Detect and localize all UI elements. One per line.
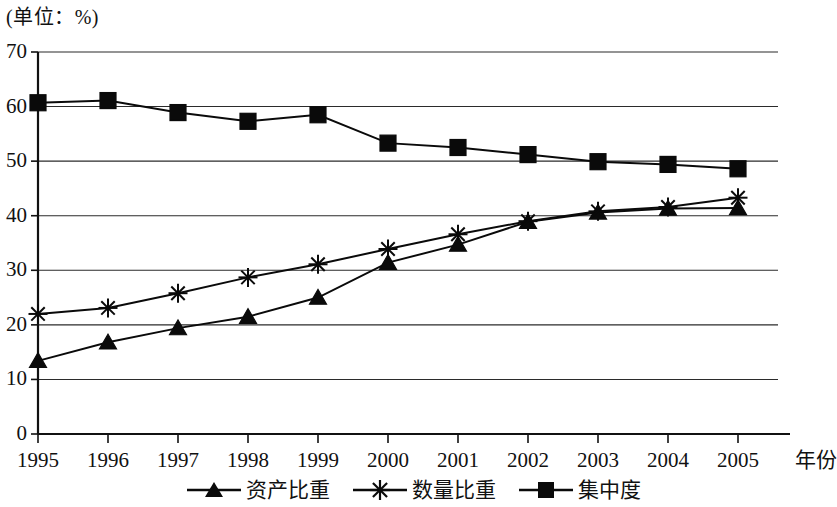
- x-tick-label: 2004: [633, 450, 703, 471]
- square-marker: [240, 113, 256, 129]
- legend-label: 资产比重: [246, 479, 330, 501]
- square-marker: [170, 105, 186, 121]
- triangle-marker: [186, 479, 242, 501]
- asterisk-marker: [309, 255, 328, 274]
- legend-swatch: [352, 479, 408, 501]
- asterisk-marker: [589, 202, 608, 221]
- square-marker: [450, 140, 466, 156]
- y-tick-label: 30: [0, 259, 27, 280]
- x-axis-name: 年份: [795, 450, 837, 471]
- y-tick-label: 70: [0, 41, 27, 62]
- square-marker: [380, 135, 396, 151]
- square-marker: [730, 161, 746, 177]
- square-marker: [538, 482, 554, 498]
- legend-item[interactable]: 资产比重: [186, 479, 330, 501]
- asterisk-marker: [239, 268, 258, 287]
- x-tick-label: 1995: [3, 450, 73, 471]
- legend-label: 集中度: [578, 479, 641, 501]
- asterisk-marker: [449, 225, 468, 244]
- asterisk-marker: [29, 304, 48, 323]
- x-tick-label: 2000: [353, 450, 423, 471]
- x-tick-label: 1997: [143, 450, 213, 471]
- square-marker: [660, 156, 676, 172]
- y-tick-label: 10: [0, 368, 27, 389]
- x-tick-label: 1998: [213, 450, 283, 471]
- legend-item[interactable]: 集中度: [518, 479, 641, 501]
- x-tick-label: 2002: [493, 450, 563, 471]
- asterisk-marker: [99, 298, 118, 317]
- triangle-marker: [310, 289, 327, 304]
- square-marker: [310, 107, 326, 123]
- y-tick-label: 60: [0, 96, 27, 117]
- square-marker: [590, 154, 606, 170]
- asterisk-marker: [352, 479, 408, 501]
- legend-swatch: [518, 479, 574, 501]
- chart-legend: 资产比重数量比重集中度: [0, 472, 827, 507]
- y-tick-label: 50: [0, 150, 27, 171]
- y-tick-label: 20: [0, 314, 27, 335]
- legend-item[interactable]: 数量比重: [352, 479, 496, 501]
- square-marker: [520, 147, 536, 163]
- series-line-triangle: [38, 208, 738, 361]
- square-marker: [100, 93, 116, 109]
- asterisk-marker: [519, 212, 538, 231]
- x-tick-label: 1996: [73, 450, 143, 471]
- legend-swatch: [186, 479, 242, 501]
- x-tick-label: 2005: [703, 450, 773, 471]
- x-tick-label: 2001: [423, 450, 493, 471]
- asterisk-marker: [659, 197, 678, 216]
- x-tick-label: 1999: [283, 450, 353, 471]
- square-marker: [30, 95, 46, 111]
- asterisk-marker: [379, 240, 398, 259]
- asterisk-marker: [370, 480, 390, 500]
- asterisk-marker: [169, 284, 188, 303]
- square-marker: [518, 479, 574, 501]
- legend-label: 数量比重: [412, 479, 496, 501]
- x-tick-label: 2003: [563, 450, 633, 471]
- y-tick-label: 0: [0, 423, 27, 444]
- asterisk-marker: [729, 188, 748, 207]
- y-tick-label: 40: [0, 205, 27, 226]
